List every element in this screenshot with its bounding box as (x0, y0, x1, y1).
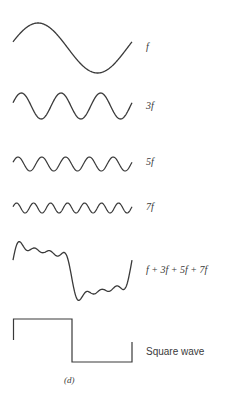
label-sum: f + 3f + 5f + 7f (146, 264, 207, 275)
fourier-synthesis-diagram (0, 0, 241, 408)
wave-fundamental (13, 23, 132, 73)
label-3f: 3f (146, 100, 154, 111)
wave-third-harmonic (13, 93, 132, 119)
wave-seventh-harmonic (13, 203, 132, 213)
figure-caption: (d) (64, 375, 75, 385)
wave-fifth-harmonic (13, 157, 132, 171)
wave-square (14, 319, 133, 362)
label-5f: 5f (146, 156, 154, 167)
wave-sum (13, 242, 132, 301)
label-f: f (146, 41, 149, 52)
label-square-wave: Square wave (146, 346, 204, 357)
label-7f: 7f (146, 201, 154, 212)
